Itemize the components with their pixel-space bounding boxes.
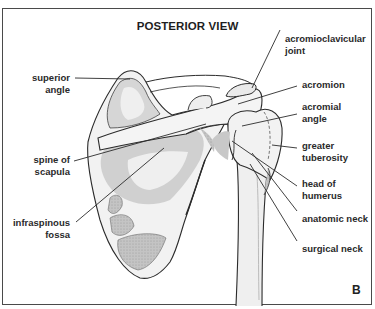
label-line: greater	[302, 140, 348, 152]
label-infraspinous-fossa: infraspinous fossa	[4, 217, 70, 240]
label-spine-of-scapula: spine of scapula	[14, 154, 70, 177]
label-line: spine of	[14, 154, 70, 166]
label-line: acromioclavicular	[285, 33, 366, 45]
label-acromioclavicular-joint: acromioclavicular joint	[285, 33, 366, 56]
label-superior-angle: superior angle	[20, 72, 70, 95]
label-acromial-angle: acromial angle	[302, 101, 341, 124]
label-line: joint	[285, 45, 366, 57]
panel-label: B	[352, 283, 361, 297]
label-line: fossa	[4, 229, 70, 241]
label-acromion: acromion	[302, 79, 345, 91]
label-line: acromial	[302, 101, 341, 113]
label-line: superior	[20, 72, 70, 84]
label-line: head of	[302, 178, 342, 190]
humerus-shaft	[236, 160, 268, 306]
label-surgical-neck: surgical neck	[302, 243, 363, 255]
label-head-of-humerus: head of humerus	[302, 178, 342, 201]
label-line: scapula	[14, 166, 70, 178]
label-line: humerus	[302, 190, 342, 202]
label-greater-tuberosity: greater tuberosity	[302, 140, 348, 163]
label-anatomic-neck: anatomic neck	[302, 213, 368, 225]
label-line: surgical neck	[302, 243, 363, 255]
label-line: angle	[20, 84, 70, 96]
label-line: anatomic neck	[302, 213, 368, 225]
label-line: infraspinous	[4, 217, 70, 229]
label-line: tuberosity	[302, 152, 348, 164]
label-line: angle	[302, 113, 341, 125]
label-line: acromion	[302, 79, 345, 91]
